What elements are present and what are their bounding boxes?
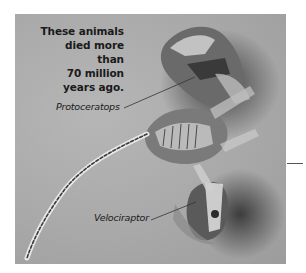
leader-lines [0, 0, 306, 273]
external-pointer-line [287, 163, 303, 164]
velociraptor-leader-line [151, 202, 196, 220]
protoceratops-leader-line [124, 77, 195, 108]
